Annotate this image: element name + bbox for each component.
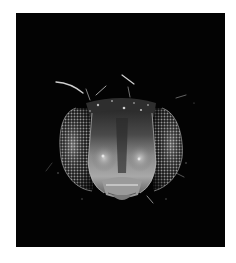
fly-head-image xyxy=(16,13,225,247)
mouthparts xyxy=(102,177,142,200)
micrograph-panel: fly head (frontal view, grayscale microg… xyxy=(16,13,225,247)
